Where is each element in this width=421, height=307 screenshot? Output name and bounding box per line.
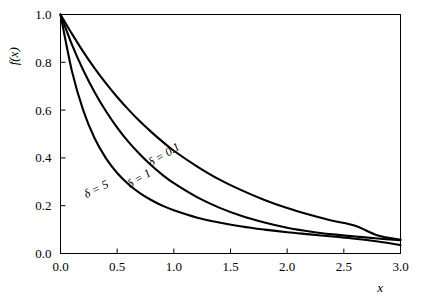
curve-labels-layer: δ = 0.1δ = 1δ = 5	[82, 140, 183, 201]
y-tick-label: 0.0	[35, 246, 51, 261]
curve-label-delta-1: δ = 1	[124, 166, 153, 191]
curve-label-delta-5: δ = 5	[82, 177, 111, 201]
x-tick-label: 3.0	[392, 259, 408, 274]
x-tick-label: 2.5	[336, 259, 352, 274]
tick-labels-layer: 0.00.51.01.52.02.53.00.00.20.40.60.81.0	[35, 7, 408, 274]
axis-titles-layer: xf(x)	[6, 47, 383, 294]
y-tick-label: 1.0	[35, 7, 51, 22]
x-tick-label: 1.5	[222, 259, 238, 274]
data-curve-delta-5	[61, 15, 401, 246]
y-tick-label: 0.8	[35, 55, 51, 70]
plot-frame	[61, 15, 401, 254]
figure-container: 0.00.51.01.52.02.53.00.00.20.40.60.81.0 …	[0, 0, 421, 307]
chart-plot: 0.00.51.01.52.02.53.00.00.20.40.60.81.0 …	[0, 0, 421, 307]
axis-ticks-layer	[61, 15, 401, 254]
x-tick-label: 0.0	[52, 259, 68, 274]
data-curve-delta-0-1	[61, 15, 401, 240]
y-tick-label: 0.4	[35, 150, 52, 165]
x-tick-label: 2.0	[279, 259, 295, 274]
y-tick-label: 0.2	[35, 198, 51, 213]
y-axis-title: f(x)	[6, 47, 21, 65]
x-axis-title: x	[376, 280, 383, 295]
data-curves-layer	[61, 15, 401, 246]
x-tick-label: 0.5	[109, 259, 125, 274]
y-tick-label: 0.6	[35, 103, 52, 118]
x-tick-label: 1.0	[166, 259, 182, 274]
data-curve-delta-1	[61, 15, 401, 241]
